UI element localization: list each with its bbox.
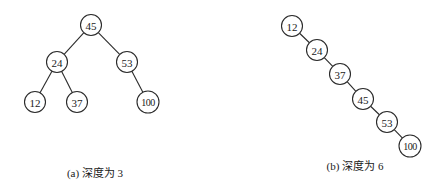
tree-node-100: 100 [399, 135, 421, 157]
tree-a: 4524531237100 [25, 15, 160, 114]
caption-a: (a) 深度为 3 [67, 164, 123, 180]
tree-node-12: 12 [282, 16, 303, 37]
tree-node-53: 53 [117, 52, 138, 73]
tree-node-24: 24 [307, 40, 328, 61]
node-label: 24 [52, 57, 64, 69]
tree-node-37: 37 [330, 64, 351, 85]
node-label: 12 [30, 97, 41, 109]
tree-node-12: 12 [25, 92, 46, 113]
node-label: 37 [335, 69, 347, 81]
tree-node-24: 24 [47, 52, 68, 73]
tree-b: 1224374553100 [282, 16, 422, 158]
edge-37-45 [347, 82, 356, 92]
node-label: 100 [403, 141, 417, 152]
edge-12-24 [300, 33, 310, 42]
node-label: 24 [312, 45, 324, 57]
edge-45-24 [64, 33, 84, 55]
edge-45-53 [98, 33, 119, 55]
node-label: 100 [141, 97, 155, 108]
edge-24-37 [62, 71, 73, 92]
caption-b: (b) 深度为 6 [327, 157, 384, 173]
edge-24-37 [324, 58, 332, 67]
node-label: 45 [358, 94, 370, 106]
node-label: 45 [86, 20, 98, 32]
edge-53-100 [394, 130, 402, 139]
tree-node-53: 53 [377, 112, 398, 133]
edge-53-100 [132, 71, 143, 92]
node-label: 37 [72, 97, 84, 109]
tree-node-45: 45 [353, 89, 374, 110]
node-label: 53 [382, 117, 394, 129]
tree-node-45: 45 [81, 15, 102, 36]
tree-node-100: 100 [137, 91, 159, 113]
edge-24-12 [40, 71, 52, 93]
tree-node-37: 37 [67, 92, 88, 113]
node-label: 53 [122, 57, 134, 69]
edge-45-53 [371, 106, 380, 114]
node-label: 12 [287, 21, 298, 33]
